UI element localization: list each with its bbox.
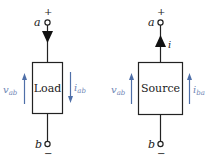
arrow-up-icon <box>187 73 192 80</box>
arrow-down-icon <box>42 31 53 43</box>
source-terminal-b-node <box>158 141 163 146</box>
arrow-down-icon <box>68 96 73 103</box>
arrow-up-icon <box>129 73 134 80</box>
source-terminal-a: a <box>148 16 155 29</box>
load-voltage-label: vab <box>3 84 18 97</box>
source-voltage-label: vab <box>111 84 126 97</box>
load-terminal-b-node <box>45 141 50 146</box>
source-current-label: iba <box>193 84 205 97</box>
source-bottom-polarity: − <box>157 148 165 158</box>
load-terminal-b: b <box>35 138 42 151</box>
source-terminal-b: b <box>148 138 155 151</box>
load-circuit: + a Load b − vab iab <box>3 6 86 158</box>
load-terminal-a: a <box>34 16 41 29</box>
arrow-up-icon <box>155 35 166 47</box>
source-circuit: + a i Source b − vab iba <box>111 6 205 158</box>
arrow-up-icon <box>22 73 27 80</box>
source-label: Source <box>141 82 180 95</box>
load-bottom-polarity: − <box>44 148 52 158</box>
load-top-polarity: + <box>44 6 52 17</box>
source-terminal-a-node <box>158 20 163 25</box>
circuit-diagram: + a Load b − vab iab + a i Source b − <box>0 0 211 158</box>
load-current-label: iab <box>74 82 86 95</box>
load-label: Load <box>34 82 62 95</box>
source-top-polarity: + <box>157 6 165 17</box>
load-terminal-a-node <box>45 20 50 25</box>
source-wire-current-label: i <box>168 39 171 50</box>
